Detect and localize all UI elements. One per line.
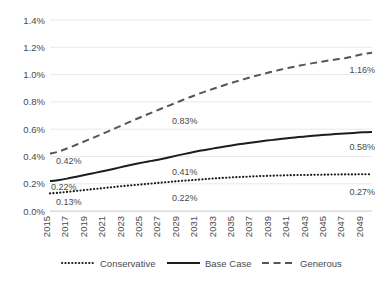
x-tick-label: 2023 (115, 216, 126, 237)
x-tick-label: 2019 (78, 216, 89, 237)
x-tick-label: 2043 (299, 216, 310, 237)
x-tick-label: 2049 (354, 216, 365, 237)
line-chart: 1.4% 1.2% 1.0% 0.8% 0.6% 0.4% 0.2% 0.0% … (0, 0, 381, 282)
legend-label-conservative[interactable]: Conservative (100, 258, 155, 269)
x-tick-label: 2027 (151, 216, 162, 237)
data-label-conservative-end: 0.27% (349, 187, 375, 197)
legend: Conservative Base Case Generous (62, 258, 342, 269)
chart-canvas: 1.4% 1.2% 1.0% 0.8% 0.6% 0.4% 0.2% 0.0% … (0, 0, 381, 282)
x-tick-label: 2015 (41, 216, 52, 237)
x-tick-label: 2031 (188, 216, 199, 237)
y-tick-label: 0.6% (23, 124, 45, 135)
y-tick-label: 0.0% (23, 206, 45, 217)
x-tick-label: 2017 (59, 216, 70, 237)
data-label-base-mid: 0.41% (172, 167, 198, 177)
series-line-generous (50, 53, 372, 154)
x-tick-label: 2041 (280, 216, 291, 237)
x-tick-label: 2033 (207, 216, 218, 237)
data-label-conservative-mid: 0.22% (172, 193, 198, 203)
x-tick-label: 2037 (243, 216, 254, 237)
legend-label-generous[interactable]: Generous (300, 258, 342, 269)
data-label-base-start: 0.22% (51, 182, 77, 192)
y-tick-label: 1.4% (23, 15, 45, 26)
data-label-generous-start: 0.42% (56, 156, 82, 166)
y-tick-label: 0.4% (23, 151, 45, 162)
x-tick-label: 2047 (335, 216, 346, 237)
data-label-generous-mid: 0.83% (172, 116, 198, 126)
y-tick-label: 1.0% (23, 69, 45, 80)
x-tick-label: 2035 (225, 216, 236, 237)
legend-label-base-case[interactable]: Base Case (205, 258, 251, 269)
x-tick-label: 2025 (133, 216, 144, 237)
x-axis-tick-labels: 2015201720192021202320252027202920312033… (41, 216, 365, 237)
x-tick-label: 2021 (96, 216, 107, 237)
x-tick-label: 2039 (262, 216, 273, 237)
y-axis-tick-labels: 1.4% 1.2% 1.0% 0.8% 0.6% 0.4% 0.2% 0.0% (23, 15, 45, 217)
x-tick-label: 2029 (170, 216, 181, 237)
gridlines (50, 20, 372, 211)
y-tick-label: 0.8% (23, 96, 45, 107)
data-label-conservative-start: 0.13% (56, 197, 82, 207)
x-tick-label: 2045 (317, 216, 328, 237)
data-label-base-end: 0.58% (349, 142, 375, 152)
series-paths (50, 53, 372, 194)
y-tick-label: 0.2% (23, 178, 45, 189)
data-label-generous-end: 1.16% (349, 65, 375, 75)
y-tick-label: 1.2% (23, 42, 45, 53)
